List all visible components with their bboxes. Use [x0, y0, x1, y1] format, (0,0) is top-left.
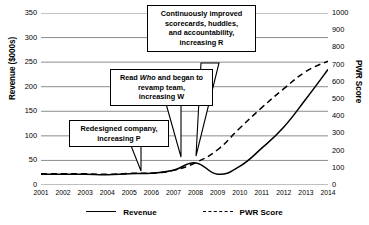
- legend-label: Revenue: [123, 208, 156, 217]
- annotation-w-italic-word: Who: [140, 73, 156, 82]
- x-axis-tick-label: 2002: [51, 189, 75, 196]
- y-axis-left-tick-label: 0: [13, 180, 37, 189]
- x-axis-tick-label: 2010: [228, 189, 252, 196]
- x-axis-tick-label: 2007: [161, 189, 185, 196]
- annotation-increasing-p: Redesigned company, increasing P: [69, 120, 169, 147]
- annotation-r-line4: increasing R: [152, 38, 251, 48]
- annotation-p-line2: increasing P: [74, 134, 164, 144]
- y-axis-right-tick-label: 300: [332, 128, 356, 137]
- x-axis-tick-label: 2004: [95, 189, 119, 196]
- legend-line-swatch: [203, 208, 233, 216]
- y-axis-left-tick-label: 150: [13, 106, 37, 115]
- annotation-w-pre: Read: [120, 73, 140, 82]
- annotation-w-post: and began to: [156, 73, 203, 82]
- x-axis-tick-label: 2013: [294, 189, 318, 196]
- y-axis-left-tick-label: 350: [13, 8, 37, 17]
- annotation-p-line1: Redesigned company,: [74, 124, 164, 134]
- y-axis-right-tick-label: 0: [332, 180, 356, 189]
- y-axis-right-tick-label: 100: [332, 163, 356, 172]
- x-axis-tick-label: 2008: [184, 189, 208, 196]
- annotation-w-line1: Read Who and began to: [115, 73, 208, 83]
- y-axis-left-tick-label: 100: [13, 131, 37, 140]
- y-axis-right-tick-label: 900: [332, 25, 356, 34]
- y-axis-right-tick-label: 800: [332, 42, 356, 51]
- y-axis-right-tick-label: 1000: [332, 8, 356, 17]
- chart-container: Revenue ($000s) PWR Score 35030025020015…: [0, 0, 369, 225]
- annotation-increasing-w: Read Who and began to revamp team, incre…: [110, 69, 213, 106]
- annotation-r-line2: scorecards, huddles,: [152, 19, 251, 29]
- x-axis-tick-label: 2011: [250, 189, 274, 196]
- annotation-r-line1: Continuously improved: [152, 9, 251, 19]
- y-axis-left-title: Revenue ($000s): [8, 31, 17, 107]
- y-axis-left-tick-label: 200: [13, 82, 37, 91]
- annotation-w-line2: revamp team,: [115, 83, 208, 93]
- x-axis-tick-label: 2005: [117, 189, 141, 196]
- y-axis-right-tick-label: 400: [332, 111, 356, 120]
- y-axis-left-tick-label: 300: [13, 33, 37, 42]
- y-axis-right-tick-label: 600: [332, 77, 356, 86]
- annotation-r-line3: and accountability,: [152, 28, 251, 38]
- annotation-w-line3: increasing W: [115, 92, 208, 102]
- chart-legend: RevenuePWR Score: [41, 203, 328, 221]
- y-axis-right-tick-label: 700: [332, 60, 356, 69]
- x-axis-tick-label: 2003: [73, 189, 97, 196]
- legend-entry: PWR Score: [203, 208, 283, 217]
- legend-line-swatch: [86, 208, 116, 216]
- legend-entry: Revenue: [86, 208, 156, 217]
- x-axis-tick-label: 2014: [316, 189, 340, 196]
- legend-label: PWR Score: [240, 208, 283, 217]
- y-axis-left-tick-label: 250: [13, 57, 37, 66]
- x-axis-tick-label: 2001: [29, 189, 53, 196]
- y-axis-right-tick-label: 500: [332, 94, 356, 103]
- x-axis-tick-label: 2009: [206, 189, 230, 196]
- x-axis-tick-label: 2006: [139, 189, 163, 196]
- x-axis-tick-label: 2012: [272, 189, 296, 196]
- y-axis-right-tick-label: 200: [332, 146, 356, 155]
- y-axis-left-tick-label: 50: [13, 155, 37, 164]
- annotation-increasing-r: Continuously improved scorecards, huddle…: [147, 5, 256, 52]
